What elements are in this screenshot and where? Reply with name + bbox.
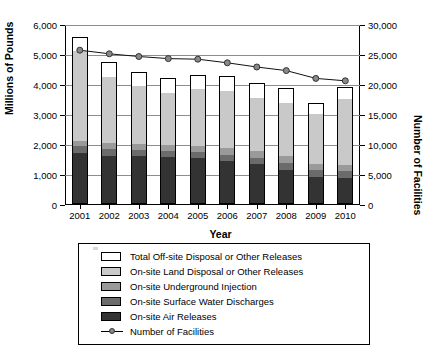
y-tick-right [360,115,365,116]
y-tick-label-right: 10,000 [368,140,397,151]
y-axis-right-title: Number of Facilities [412,115,424,215]
x-tick-label: 2008 [276,210,297,221]
y-tick-right [360,145,365,146]
y-tick-label-right: 30,000 [368,20,397,31]
facilities-marker [106,51,112,57]
chart-figure: Millions of Pounds Number of Facilities … [0,0,441,351]
x-tick [257,205,258,209]
y-tick-label-left: 4,000 [33,80,57,91]
legend-label: On-site Surface Water Discharges [130,296,274,307]
y-axis-left-title: Millions of Pounds [3,22,15,115]
legend-label: On-site Air Releases [130,311,217,322]
facilities-line-series [65,25,360,205]
facilities-marker [224,60,230,66]
y-tick-label-right: 25,000 [368,50,397,61]
legend-label: Total Off-site Disposal or Other Release… [130,251,302,262]
x-tick-label: 2004 [158,210,179,221]
x-tick [286,205,287,209]
x-tick [198,205,199,209]
legend-swatch [101,252,121,261]
x-tick-label: 2009 [305,210,326,221]
x-tick-label: 2005 [187,210,208,221]
legend-item: Total Off-site Disposal or Other Release… [101,249,362,264]
x-tick-label: 2003 [128,210,149,221]
legend-item: On-site Land Disposal or Other Releases [101,264,362,279]
y-tick-label-right: 5,000 [368,170,392,181]
facilities-marker [195,56,201,62]
y-tick-label-left: 6,000 [33,20,57,31]
y-tick-right [360,55,365,56]
x-tick [109,205,110,209]
y-tick-right [360,175,365,176]
x-tick [139,205,140,209]
x-tick [316,205,317,209]
legend-swatch [101,267,121,276]
y-tick-right [360,85,365,86]
x-tick [227,205,228,209]
y-tick-right [360,25,365,26]
facilities-marker [136,54,142,60]
facilities-line [80,50,346,81]
legend-swatch [101,312,121,321]
legend-swatch [101,297,121,306]
chart-legend: Total Off-site Disposal or Other Release… [78,243,370,345]
legend-line-marker-icon [101,327,123,336]
facilities-marker [165,56,171,62]
legend-swatch [101,282,121,291]
y-tick-label-right: 15,000 [368,110,397,121]
x-tick-label: 2002 [99,210,120,221]
x-tick-label: 2007 [246,210,267,221]
legend-item: On-site Air Releases [101,309,362,324]
x-tick [80,205,81,209]
legend-item: Number of Facilities [101,324,362,339]
x-tick-label: 2001 [69,210,90,221]
facilities-marker [283,68,289,74]
y-tick-label-left: 5,000 [33,50,57,61]
y-tick-label-right: 20,000 [368,80,397,91]
y-tick-label-right: 0 [368,200,373,211]
plot-area: 01,0002,0003,0004,0005,0006,000 05,00010… [65,25,360,205]
y-tick-label-left: 2,000 [33,140,57,151]
facilities-marker [254,64,260,70]
y-tick-label-left: 3,000 [33,110,57,121]
legend-label: On-site Underground Injection [130,281,257,292]
facilities-marker [313,75,319,81]
x-axis-title: Year [0,228,441,240]
legend-label: On-site Land Disposal or Other Releases [130,266,303,277]
y-tick-left [60,205,65,206]
y-tick-label-left: 0 [52,200,57,211]
legend-label: Number of Facilities [130,326,214,337]
y-tick-right [360,205,365,206]
facilities-marker [77,47,83,53]
x-tick [168,205,169,209]
y-tick-label-left: 1,000 [33,170,57,181]
facilities-marker [342,78,348,84]
x-tick-label: 2006 [217,210,238,221]
x-tick [345,205,346,209]
legend-item: On-site Underground Injection [101,279,362,294]
legend-item: On-site Surface Water Discharges [101,294,362,309]
x-tick-label: 2010 [335,210,356,221]
legend-decoration [93,247,98,250]
